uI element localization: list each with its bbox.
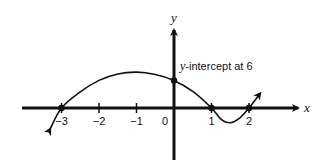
x-tick-label: −3 [55,115,68,127]
x-tick-label: 0 [162,115,168,127]
y-axis-label: y [169,10,177,25]
x-tick-label: −1 [130,115,143,127]
function-curve [50,72,260,129]
marked-point [246,105,252,111]
function-graph: x y −3−2−1012 y-intercept at 6 [0,0,326,164]
x-axis-label: x [303,100,310,115]
annotation-text: -intercept at 6 [185,60,252,72]
x-tick-label: 1 [208,115,214,127]
marked-point [58,105,64,111]
x-tick-label: 2 [246,115,252,127]
marked-point [171,77,177,83]
marked-point [208,105,214,111]
x-tick-label: −2 [93,115,106,127]
y-intercept-annotation: y-intercept at 6 [179,59,253,73]
